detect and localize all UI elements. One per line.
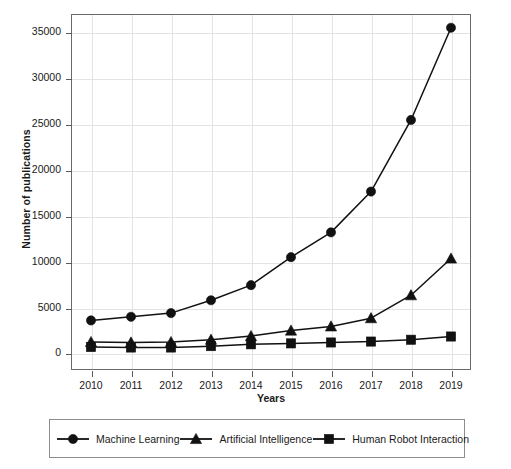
y-axis-tick-label: 5000 [9,301,61,313]
y-axis-tick-label: 0 [9,346,61,358]
circle-marker-icon [126,312,135,321]
circle-marker-icon [166,309,175,318]
circle-marker-icon [286,253,295,262]
y-axis-tick-label: 25000 [9,117,61,129]
y-axis-tick-label: 30000 [9,71,61,83]
x-axis-tick [172,371,173,377]
square-marker-icon [286,339,295,348]
y-axis-tick-label: 35000 [9,25,61,37]
x-axis-tick [252,371,253,377]
legend-label: Machine Learning [96,433,179,445]
square-marker-icon [246,340,255,349]
x-axis-tick [212,371,213,377]
circle-marker-icon [406,115,415,124]
x-axis-tick [132,371,133,377]
circle-marker-icon [206,296,215,305]
circle-marker-icon [446,23,455,32]
circle-marker-icon [86,316,95,325]
triangle-marker-icon [365,313,376,323]
square-marker-icon [206,342,215,351]
y-axis-title: Number of publications [20,109,32,269]
y-axis-tick-label: 20000 [9,163,61,175]
legend-item[interactable]: Machine Learning [56,432,179,446]
square-marker-icon [126,343,135,352]
circle-marker-icon [366,187,375,196]
y-axis-tick-label: 15000 [9,209,61,221]
circle-marker-icon [246,281,255,290]
x-axis-tick [372,371,373,377]
series-line [91,28,451,321]
square-marker-icon [326,338,335,347]
square-marker-icon [446,332,455,341]
triangle-marker-icon [445,253,456,263]
x-axis-title: Years [71,392,471,404]
data-series [86,23,455,325]
legend-item[interactable]: Human Robot Interaction [312,432,469,446]
x-axis-tick [452,371,453,377]
legend-label: Human Robot Interaction [352,433,469,445]
square-marker-icon [86,342,95,351]
x-axis-tick [292,371,293,377]
chart-figure: Number of publications 05000100001500020… [0,0,511,469]
x-axis-tick [332,371,333,377]
x-axis-tick [92,371,93,377]
square-marker-icon [166,343,175,352]
x-axis-tick [412,371,413,377]
circle-marker-icon [68,434,77,443]
y-axis-tick-label: 10000 [9,255,61,267]
square-marker-icon [325,434,334,443]
legend-marker [56,432,90,446]
legend-item[interactable]: Artificial Intelligence [179,432,312,446]
square-marker-icon [406,335,415,344]
square-marker-icon [366,337,375,346]
legend-marker [179,432,213,446]
x-axis-tick-label: 2019 [426,379,476,391]
circle-marker-icon [326,228,335,237]
legend-marker [312,432,346,446]
legend-label: Artificial Intelligence [219,433,312,445]
chart-legend: Machine LearningArtificial IntelligenceH… [49,419,465,458]
series-layer [71,14,471,370]
data-series [85,253,456,347]
